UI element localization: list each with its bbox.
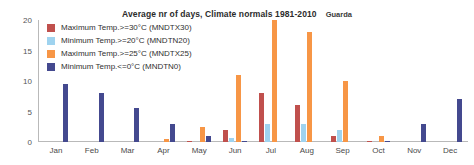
- legend-swatch-icon: [47, 24, 55, 32]
- bar[interactable]: [272, 20, 277, 142]
- bar-group: [253, 20, 289, 142]
- y-axis-tick-label: 20: [0, 16, 32, 25]
- x-axis-tick-label: May: [192, 146, 207, 155]
- legend-item-label: Maximum Temp.>=30°C (MNDTX30): [61, 23, 192, 32]
- x-axis-tick-label: Apr: [157, 146, 169, 155]
- x-axis-tick-label: Feb: [85, 146, 99, 155]
- bar[interactable]: [343, 81, 348, 142]
- bar[interactable]: [421, 124, 426, 142]
- x-axis-tick-label: Jun: [229, 146, 242, 155]
- y-axis-tick-label: 15: [0, 46, 32, 55]
- bar[interactable]: [170, 124, 175, 142]
- legend-item-label: Minimum Temp.>=20°C (MNDTN20): [61, 36, 190, 45]
- legend-item[interactable]: Maximum Temp.>=30°C (MNDTX30): [47, 21, 192, 34]
- bar-group: [289, 20, 325, 142]
- x-axis-tick-label: Mar: [121, 146, 135, 155]
- bar-group: [217, 20, 253, 142]
- x-axis-tick-label: Jul: [266, 146, 276, 155]
- bar[interactable]: [331, 136, 336, 142]
- bar[interactable]: [99, 93, 104, 142]
- x-axis-tick-label: Jan: [49, 146, 62, 155]
- y-axis-tick-label: 10: [0, 77, 32, 86]
- x-axis-tick-label: Dec: [443, 146, 457, 155]
- legend-swatch-icon: [47, 63, 55, 71]
- chart-legend: Maximum Temp.>=30°C (MNDTX30)Minimum Tem…: [47, 21, 192, 73]
- bar-group: [396, 20, 432, 142]
- bar[interactable]: [223, 130, 228, 142]
- bar[interactable]: [229, 138, 234, 142]
- bar[interactable]: [206, 136, 211, 142]
- bar[interactable]: [187, 141, 192, 142]
- bar[interactable]: [367, 141, 372, 142]
- bar-group: [432, 20, 468, 142]
- legend-item[interactable]: Maximum Temp.>=25°C (MNDTX25): [47, 47, 192, 60]
- x-axis-tick-label: Oct: [372, 146, 384, 155]
- bar[interactable]: [379, 136, 384, 142]
- bar[interactable]: [337, 130, 342, 142]
- bar[interactable]: [259, 93, 264, 142]
- bar-group: [361, 20, 397, 142]
- bar[interactable]: [63, 84, 68, 142]
- y-axis-tick-label: 5: [0, 107, 32, 116]
- legend-item[interactable]: Minimum Temp.>=20°C (MNDTN20): [47, 34, 192, 47]
- bar[interactable]: [265, 124, 270, 142]
- x-axis-tick-label: Nov: [407, 146, 421, 155]
- bar[interactable]: [457, 99, 462, 142]
- bar[interactable]: [236, 75, 241, 142]
- bar[interactable]: [164, 139, 169, 142]
- y-axis-tick-label: 0: [0, 138, 32, 147]
- bar[interactable]: [301, 124, 306, 142]
- bar[interactable]: [295, 105, 300, 142]
- x-axis-tick-label: Aug: [300, 146, 314, 155]
- legend-item-label: Maximum Temp.>=25°C (MNDTX25): [61, 49, 192, 58]
- legend-swatch-icon: [47, 37, 55, 45]
- bar-group: [325, 20, 361, 142]
- x-axis-tick-label: Sep: [335, 146, 349, 155]
- climate-bar-chart: Average nr of days, Climate normals 1981…: [0, 0, 474, 165]
- chart-title: Average nr of days, Climate normals 1981…: [122, 9, 317, 19]
- chart-title-row: Average nr of days, Climate normals 1981…: [0, 3, 474, 21]
- station-name: Guarda: [326, 10, 352, 19]
- bar[interactable]: [242, 141, 247, 142]
- legend-item-label: Minimum Temp.<=0°C (MNDTN0): [61, 62, 181, 71]
- bar[interactable]: [307, 32, 312, 142]
- bar[interactable]: [385, 141, 390, 142]
- bar[interactable]: [134, 108, 139, 142]
- legend-item[interactable]: Minimum Temp.<=0°C (MNDTN0): [47, 60, 192, 73]
- legend-swatch-icon: [47, 50, 55, 58]
- bar[interactable]: [200, 127, 205, 142]
